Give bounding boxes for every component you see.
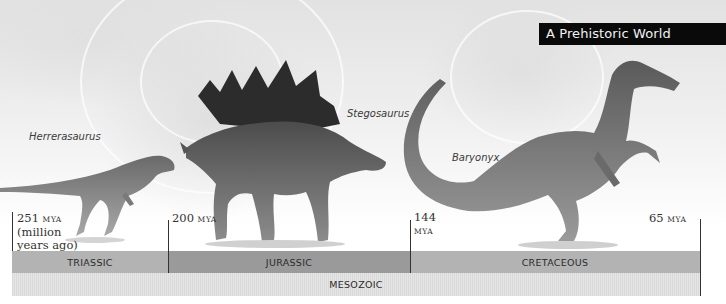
marker-144-mya: 144 MYA — [414, 211, 436, 238]
period-jurassic: JURASSIC — [168, 251, 410, 273]
herrerasaurus-label: Herrerasaurus — [29, 131, 101, 142]
tick-144-mya-overlay — [410, 251, 411, 273]
tick-200-mya-overlay — [168, 251, 169, 273]
prehistoric-timeline-figure: A Prehistoric World Herrerasaurus Stegos… — [0, 0, 726, 304]
period-cretaceous: CRETACEOUS — [410, 251, 700, 273]
figure-title: A Prehistoric World — [546, 26, 671, 41]
baryonyx-label: Baryonyx — [452, 152, 499, 163]
period-triassic: TRIASSIC — [12, 251, 168, 273]
baryonyx-illustration — [398, 55, 688, 250]
marker-200-mya: 200 MYA — [172, 212, 217, 226]
era-mesozoic: MESOZOIC — [12, 273, 700, 296]
tick-65-mya — [700, 219, 701, 296]
figure-title-box: A Prehistoric World — [539, 23, 726, 45]
marker-65-mya: 65 MYA — [649, 212, 687, 226]
marker-251-mya: 251 MYA (million years ago) — [17, 212, 78, 252]
period-bar: TRIASSIC JURASSIC CRETACEOUS — [12, 251, 700, 273]
